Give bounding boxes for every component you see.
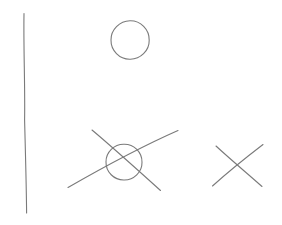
canvas-background bbox=[0, 0, 282, 225]
sketch-drawing bbox=[0, 0, 282, 225]
sketch-canvas bbox=[0, 0, 282, 225]
